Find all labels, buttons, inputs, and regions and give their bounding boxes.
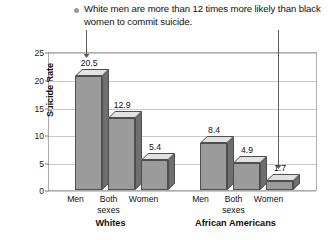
bar-african-americans-women: 1.7 [266,181,293,190]
y-tick-mark-25 [45,53,49,54]
bar-front-face [108,118,135,190]
bar-value-label: 8.4 [208,125,220,135]
chart-plot-area: Suicide Rate 25 20 15 10 5 0 20.5 12.9 5… [48,52,317,191]
category-label-whites-women: Women [125,194,162,205]
bar-front-face [266,181,293,190]
y-tick-label-25: 25 [34,48,44,58]
y-tick-label-20: 20 [34,76,44,86]
y-tick-label-15: 15 [34,104,44,114]
caption-text: White men are more than 12 times more li… [84,3,326,28]
group-label-african-americans: African Americans [184,218,287,228]
annotation-arrow-line-black-women [278,30,279,166]
y-axis-title: Suicide Rate [45,45,55,135]
chart-caption: White men are more than 12 times more li… [74,3,326,28]
category-label-whites-both-sexes: Both sexes [92,194,125,215]
bar-front-face [200,143,227,190]
y-tick-mark-5 [45,164,49,165]
bar-african-americans-both-sexes: 4.9 [233,163,260,190]
y-tick-mark-0 [45,191,49,192]
y-tick-label-0: 0 [39,186,44,196]
bar-whites-both-sexes: 12.9 [108,118,135,190]
y-tick-label-5: 5 [39,159,44,169]
bar-whites-women: 5.4 [141,160,168,190]
bar-african-americans-men: 8.4 [200,143,227,190]
y-tick-mark-15 [45,108,49,109]
bar-value-label: 1.7 [274,163,286,173]
annotation-arrow-line-white-men [86,30,87,55]
bar-value-label: 20.5 [81,58,98,68]
bullet-dot-icon [74,8,79,13]
group-label-whites: Whites [59,218,162,228]
category-label-african-americans-both-sexes: Both sexes [217,194,250,215]
category-label-african-americans-women: Women [250,194,287,205]
category-label-whites-men: Men [59,194,92,205]
category-label-african-americans-men: Men [184,194,217,205]
bar-front-face [141,160,168,190]
gridline-0 [49,191,316,192]
y-tick-label-10: 10 [34,131,44,141]
bar-whites-men: 20.5 [75,76,102,190]
bar-value-label: 4.9 [241,145,253,155]
bar-value-label: 5.4 [149,142,161,152]
y-tick-mark-10 [45,136,49,137]
bar-front-face [233,163,260,190]
bar-value-label: 12.9 [114,100,131,110]
bar-front-face [75,76,102,190]
y-tick-mark-20 [45,80,49,81]
